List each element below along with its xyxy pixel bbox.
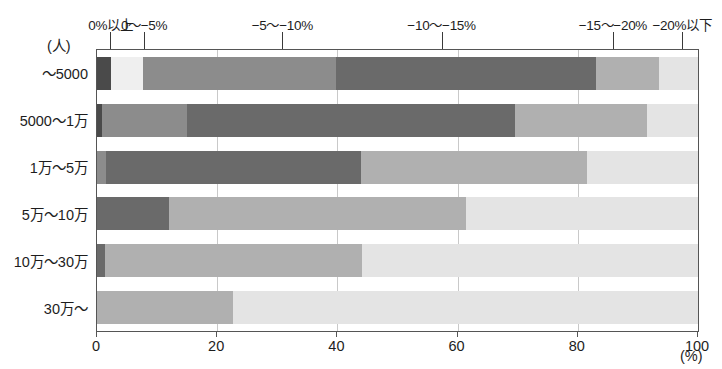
y-axis-tick-label: 30万～	[44, 296, 88, 317]
legend-label: −15～−20%	[579, 14, 647, 34]
bar-segment	[97, 151, 106, 184]
bar-segment	[106, 151, 361, 184]
x-axis-tick-label: 60	[449, 338, 465, 354]
bar-segment	[97, 197, 169, 230]
legend-label: −5～−10%	[252, 14, 313, 34]
stacked-bar-chart: 0%以上0～−5%−5～−10%−10～−15%−15～−20%−20%以下 (…	[0, 0, 722, 369]
x-axis-tick-label: 20	[208, 338, 224, 354]
bar-segment	[466, 197, 698, 230]
bar-segment	[111, 57, 143, 90]
bar-row	[97, 151, 698, 184]
legend-leader-tick	[442, 32, 443, 50]
y-axis-tick-label: ～5000	[42, 62, 88, 83]
legend-leader-tick	[144, 32, 145, 50]
legend-label: −10～−15%	[407, 14, 475, 34]
bar-segment	[361, 151, 586, 184]
bar-row	[97, 244, 698, 277]
x-axis-tick	[457, 332, 458, 337]
bar-segment	[362, 244, 698, 277]
bar-segment	[647, 104, 698, 137]
gridline	[578, 50, 579, 331]
bar-row	[97, 104, 698, 137]
bar-segment	[336, 57, 596, 90]
bar-segment	[143, 57, 336, 90]
gridline	[458, 50, 459, 331]
legend-leader-tick	[110, 32, 111, 50]
bar-row	[97, 291, 698, 324]
gridline	[217, 50, 218, 331]
bar-segment	[596, 57, 659, 90]
bar-row	[97, 197, 698, 230]
y-axis-tick-label: 1万～5万	[30, 156, 88, 177]
bar-segment	[97, 244, 105, 277]
bar-segment	[105, 244, 362, 277]
bar-segment	[169, 197, 466, 230]
bar-segment	[187, 104, 515, 137]
bar-segment	[97, 57, 111, 90]
x-axis-tick	[216, 332, 217, 337]
x-axis-tick-label: 80	[569, 338, 585, 354]
plot-area	[96, 49, 699, 332]
y-axis-tick-label: 5000～1万	[20, 109, 88, 130]
x-axis-tick	[577, 332, 578, 337]
legend-label: −20%以下	[652, 14, 711, 34]
x-axis-tick	[697, 332, 698, 337]
bar-segment	[97, 291, 233, 324]
x-axis-tick	[336, 332, 337, 337]
bar-segment	[659, 57, 698, 90]
bar-row	[97, 57, 698, 90]
legend-leader-tick	[613, 32, 614, 50]
y-axis-unit-label: (人)	[47, 34, 71, 55]
x-axis-tick	[96, 332, 97, 337]
bar-segment	[102, 104, 187, 137]
legend-band: 0%以上0～−5%−5～−10%−10～−15%−15～−20%−20%以下	[0, 0, 722, 50]
x-axis-tick-label: 40	[328, 338, 344, 354]
x-axis-tick-label: 0	[92, 338, 100, 354]
y-axis-tick-label: 5万～10万	[22, 202, 88, 223]
legend-label: 0～−5%	[121, 14, 167, 34]
legend-leader-tick	[282, 32, 283, 50]
bar-segment	[515, 104, 647, 137]
bar-segment	[587, 151, 698, 184]
bar-segment	[233, 291, 698, 324]
legend-leader-tick	[682, 32, 683, 50]
x-axis-unit-label: (%)	[680, 348, 703, 364]
gridline	[337, 50, 338, 331]
y-axis-tick-label: 10万～30万	[14, 249, 88, 270]
